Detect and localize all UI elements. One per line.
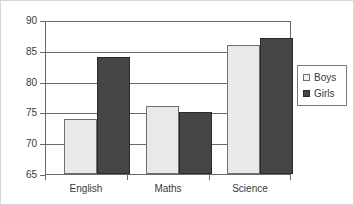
bar-girls-science xyxy=(260,38,293,174)
x-cat-label-science: Science xyxy=(209,183,291,194)
y-tick-label-90: 90 xyxy=(0,16,37,26)
legend: Boys Girls xyxy=(297,65,347,106)
legend-swatch-girls-icon xyxy=(303,90,310,97)
legend-label-boys: Boys xyxy=(314,73,336,83)
bar-boys-english xyxy=(64,119,97,174)
legend-swatch-boys-icon xyxy=(303,74,310,81)
y-tick-label-65: 65 xyxy=(0,170,37,180)
x-cat-label-maths: Maths xyxy=(127,183,209,194)
bar-boys-maths xyxy=(146,106,179,174)
y-tick-label-80: 80 xyxy=(0,78,37,88)
bar-chart: 90 85 80 75 70 65 English M xyxy=(0,0,354,205)
legend-entry-girls: Girls xyxy=(303,87,342,100)
bar-girls-english xyxy=(97,57,130,174)
plot-area xyxy=(45,21,291,175)
x-tick-mark-2 xyxy=(209,175,210,180)
x-tick-mark-start xyxy=(45,175,46,180)
bar-boys-science xyxy=(227,45,260,174)
y-tick-label-70: 70 xyxy=(0,139,37,149)
x-cat-label-english: English xyxy=(45,183,127,194)
y-tick-label-85: 85 xyxy=(0,47,37,57)
bar-girls-maths xyxy=(179,112,212,174)
legend-label-girls: Girls xyxy=(314,89,335,99)
legend-entry-boys: Boys xyxy=(303,71,342,84)
x-tick-mark-end xyxy=(290,175,291,180)
x-tick-mark-1 xyxy=(127,175,128,180)
y-tick-label-75: 75 xyxy=(0,108,37,118)
